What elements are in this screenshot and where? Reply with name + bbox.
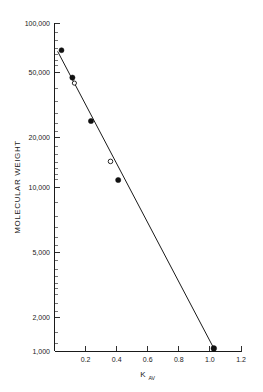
data-point [59, 48, 64, 53]
data-point-open [108, 159, 113, 164]
data-point [116, 177, 121, 182]
y-tick-label: 20,000 [29, 134, 51, 141]
molecular-weight-calibration-chart: 100,000 50,000 20,000 10,000 5,000 2,000… [0, 0, 263, 392]
x-tick-label: 0.6 [143, 356, 153, 363]
data-point [88, 118, 93, 123]
y-axis-tick-labels: 100,000 50,000 20,000 10,000 5,000 2,000… [25, 20, 50, 355]
x-tick-label: 1.2 [236, 356, 246, 363]
x-axis-title-subscript: AV [149, 375, 156, 381]
x-tick-label: 1.0 [205, 356, 215, 363]
x-axis-title-main: K [140, 370, 146, 379]
x-tick-label: 0.2 [81, 356, 91, 363]
x-tick-label: 0.4 [112, 356, 122, 363]
y-tick-label: 10,000 [29, 184, 51, 191]
y-tick-label: 2,000 [32, 314, 50, 321]
y-tick-label: 1,000 [32, 348, 50, 355]
x-tick-label: 0.8 [174, 356, 184, 363]
x-axis-tick-labels: 0.2 0.4 0.6 0.8 1.0 1.2 [81, 356, 246, 363]
axis-lines [55, 23, 242, 352]
x-axis-title: K AV [140, 370, 155, 381]
data-point [211, 346, 217, 352]
y-axis-minor-ticks [55, 33, 59, 343]
data-points [59, 48, 217, 352]
y-axis-major-ticks [55, 23, 61, 351]
y-axis-title: MOLECULAR WEIGHT [13, 140, 22, 234]
y-tick-label: 5,000 [32, 249, 50, 256]
y-tick-label: 50,000 [29, 69, 51, 76]
regression-line [58, 51, 215, 350]
data-point-open [72, 81, 76, 85]
y-tick-label: 100,000 [25, 20, 50, 27]
x-axis-ticks [86, 346, 241, 352]
data-point [70, 75, 75, 80]
